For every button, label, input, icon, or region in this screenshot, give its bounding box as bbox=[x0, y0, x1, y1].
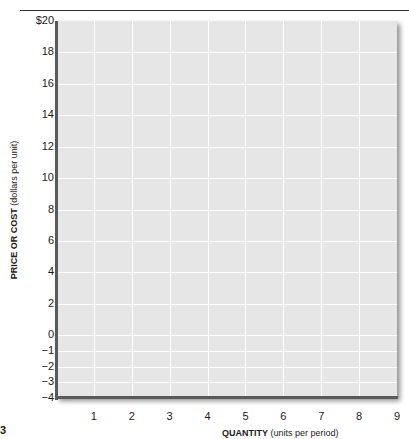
h-gridline bbox=[56, 367, 397, 368]
y-axis-label: PRICE OR COST (dollars per unit) bbox=[9, 141, 19, 280]
v-gridline bbox=[321, 21, 322, 398]
y-tick-label: 12 bbox=[42, 140, 54, 152]
h-gridline bbox=[56, 178, 397, 179]
y-tick-label: −2 bbox=[41, 360, 54, 372]
x-axis-label-main: QUANTITY bbox=[222, 428, 268, 438]
h-gridline bbox=[56, 272, 397, 273]
v-gridline bbox=[245, 21, 246, 398]
v-gridline bbox=[359, 21, 360, 398]
x-tick-label: 8 bbox=[349, 410, 369, 422]
h-gridline bbox=[56, 147, 397, 148]
y-tick-label: −4 bbox=[41, 391, 54, 403]
x-axis-label: QUANTITY (units per period) bbox=[222, 428, 339, 438]
h-gridline bbox=[56, 351, 397, 352]
x-tick-label: 6 bbox=[273, 410, 293, 422]
h-gridline bbox=[56, 84, 397, 85]
x-tick-label: 4 bbox=[198, 410, 218, 422]
plot-area bbox=[56, 21, 397, 398]
h-gridline bbox=[56, 52, 397, 53]
x-axis-line bbox=[55, 396, 398, 399]
h-gridline bbox=[56, 304, 397, 305]
y-tick-label: 0 bbox=[48, 328, 54, 340]
v-gridline bbox=[283, 21, 284, 398]
x-axis-label-units: (units per period) bbox=[268, 428, 339, 438]
figure-number-fragment: 3 bbox=[0, 424, 6, 436]
x-tick-label: 1 bbox=[84, 410, 104, 422]
y-tick-label: −1 bbox=[41, 344, 54, 356]
y-axis-label-main: PRICE OR COST bbox=[9, 208, 19, 279]
x-tick-label: 7 bbox=[311, 410, 331, 422]
y-tick-label: −3 bbox=[41, 375, 54, 387]
h-gridline bbox=[56, 241, 397, 242]
h-gridline bbox=[56, 210, 397, 211]
y-tick-label: 4 bbox=[48, 265, 54, 277]
top-rule bbox=[20, 10, 409, 11]
y-axis-label-units: (dollars per unit) bbox=[9, 141, 19, 209]
v-gridline bbox=[132, 21, 133, 398]
y-tick-label: $20 bbox=[36, 14, 54, 26]
v-gridline bbox=[170, 21, 171, 398]
v-gridline bbox=[94, 21, 95, 398]
h-gridline bbox=[56, 115, 397, 116]
y-tick-label: 8 bbox=[48, 203, 54, 215]
y-tick-label: 16 bbox=[42, 77, 54, 89]
x-tick-label: 3 bbox=[160, 410, 180, 422]
x-tick-label: 5 bbox=[235, 410, 255, 422]
h-gridline bbox=[56, 382, 397, 383]
y-tick-label: 10 bbox=[42, 171, 54, 183]
v-gridline bbox=[208, 21, 209, 398]
x-tick-label: 2 bbox=[122, 410, 142, 422]
x-tick-label: 9 bbox=[387, 410, 407, 422]
h-gridline bbox=[56, 335, 397, 336]
y-tick-label: 18 bbox=[42, 45, 54, 57]
y-tick-label: 14 bbox=[42, 108, 54, 120]
y-tick-label: 2 bbox=[48, 297, 54, 309]
y-tick-label: 6 bbox=[48, 234, 54, 246]
y-axis-line bbox=[55, 21, 58, 400]
